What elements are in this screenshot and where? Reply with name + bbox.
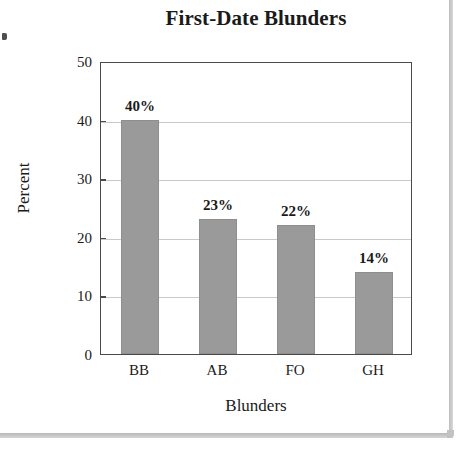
y-axis-tick-label: 0: [85, 347, 93, 364]
page-edge-bottom: [0, 433, 453, 438]
scan-artifact-speck: [2, 33, 7, 40]
y-axis-tick-label: 50: [77, 54, 92, 71]
y-axis-tick-mark: [100, 121, 106, 123]
bar-value-label: 23%: [203, 197, 233, 214]
y-axis-tick-label: 10: [77, 288, 92, 305]
bar-slot: 22%: [257, 63, 335, 354]
chart-title: First-Date Blunders: [100, 6, 412, 31]
bar: [121, 120, 159, 354]
bar-value-label: 14%: [359, 250, 389, 267]
y-axis-tick-label: 20: [77, 229, 92, 246]
page-edge-right: [449, 0, 453, 438]
y-axis-tick-mark: [100, 238, 106, 240]
bar-slot: 23%: [179, 63, 257, 354]
x-axis-tick-label: GH: [334, 362, 412, 379]
x-axis-tick-labels: BBABFOGH: [100, 362, 412, 384]
y-axis-tick-labels: 01020304050: [58, 62, 92, 355]
bar: [277, 225, 315, 354]
bar-value-label: 22%: [281, 203, 311, 220]
bar-series: 40%23%22%14%: [101, 63, 411, 354]
bar-value-label: 40%: [125, 98, 155, 115]
y-axis-title: Percent: [14, 138, 34, 238]
y-axis-tick-mark: [100, 179, 106, 181]
y-axis-tick-label: 40: [77, 112, 92, 129]
y-axis-tick-mark: [100, 296, 106, 298]
bar-slot: 40%: [101, 63, 179, 354]
plot-area: 40%23%22%14%: [100, 62, 412, 355]
x-axis-tick-label: BB: [100, 362, 178, 379]
x-axis-tick-label: FO: [256, 362, 334, 379]
x-axis-tick-label: AB: [178, 362, 256, 379]
scanned-chart-page: First-Date Blunders Percent 01020304050 …: [0, 0, 462, 449]
bar: [355, 272, 393, 354]
x-axis-title: Blunders: [100, 396, 412, 416]
bar-slot: 14%: [335, 63, 413, 354]
bar: [199, 219, 237, 354]
y-axis-tick-label: 30: [77, 171, 92, 188]
